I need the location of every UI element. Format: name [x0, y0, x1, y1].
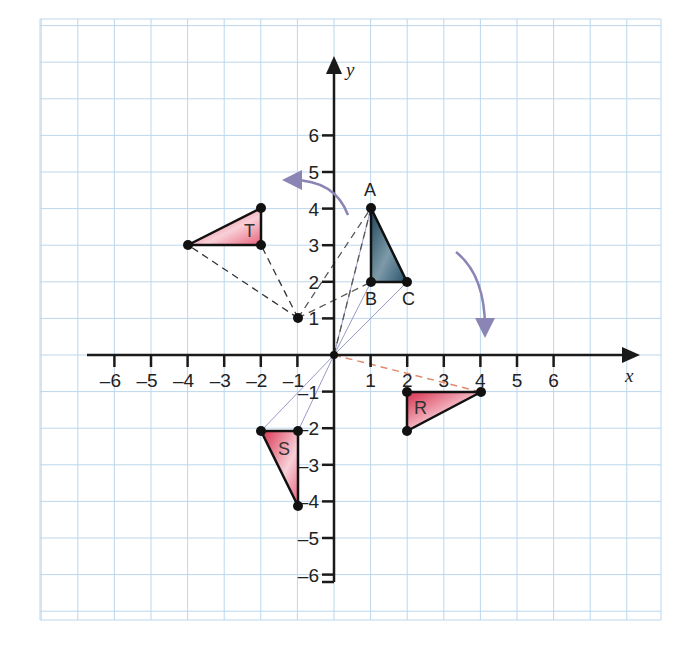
y-tick-label: 4: [308, 199, 319, 220]
x-tick-label: –6: [100, 370, 121, 391]
y-tick-label: 1: [308, 308, 319, 329]
x-tick-label: –4: [173, 370, 195, 391]
x-tick-label: –3: [210, 370, 231, 391]
y-axis-arrow-icon: [326, 56, 342, 74]
triangle-s-label: S: [278, 439, 290, 459]
vertex-c-label: C: [402, 289, 415, 309]
x-tick-label: –2: [246, 370, 267, 391]
vertex-a-label: A: [364, 180, 376, 200]
y-tick-label: –5: [298, 528, 319, 549]
y-tick-label: 2: [308, 272, 319, 293]
origin-point: [330, 351, 338, 359]
x-tick-label: 1: [365, 370, 376, 391]
x-tick-label: –5: [136, 370, 157, 391]
x-tick-label: 5: [512, 370, 523, 391]
y-tick-label: 6: [308, 125, 319, 146]
y-axis-label: y: [344, 59, 355, 80]
y-tick-label: 3: [308, 235, 319, 256]
x-axis-label: x: [624, 365, 634, 386]
grid: [40, 19, 661, 620]
y-tick-label: –1: [298, 382, 319, 403]
y-tick-label: –6: [298, 565, 319, 586]
y-tick-label: 5: [308, 162, 319, 183]
x-tick-label: 3: [439, 370, 450, 391]
x-tick-label: 6: [548, 370, 559, 391]
x-axis-arrow-icon: [622, 347, 640, 363]
centre-point: [293, 313, 303, 323]
coordinate-plane: –6–5–4–3–2–1123456654321–1–2–3–4–5–6 x y…: [0, 0, 680, 662]
triangle-t-label: T: [244, 221, 255, 241]
rotation-arrow-ccw-icon: [292, 180, 348, 215]
triangle-r-label: R: [414, 398, 427, 418]
y-tick-label: –3: [298, 455, 319, 476]
vertex-b-label: B: [365, 289, 377, 309]
